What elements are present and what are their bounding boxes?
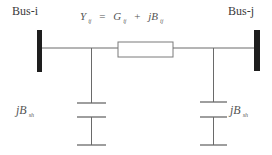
shunt-left-subscript: sh [29, 112, 34, 118]
g-symbol: G [113, 10, 121, 22]
y-symbol: Y [80, 10, 86, 22]
bus-j-bar [254, 30, 260, 71]
bus-j-label: Bus-j [228, 4, 254, 19]
g-subscript: ij [123, 18, 126, 24]
plus-sign: + [134, 10, 140, 22]
b-symbol: jB [148, 10, 158, 22]
bus-i-label: Bus-i [12, 4, 38, 19]
shunt-left-label: jBsh [16, 103, 34, 118]
b-subscript: ij [160, 18, 163, 24]
shunt-right-subscript: sh [243, 112, 248, 118]
series-admittance-formula: Yij = Gij + jBij [80, 10, 163, 24]
bus-i-bar [37, 30, 42, 72]
shunt-left-symbol: jB [16, 103, 27, 117]
equals-sign: = [99, 10, 105, 22]
series-impedance-box [118, 42, 173, 57]
y-subscript: ij [88, 18, 91, 24]
shunt-right-label: jBsh [230, 103, 248, 118]
shunt-right-symbol: jB [230, 103, 241, 117]
